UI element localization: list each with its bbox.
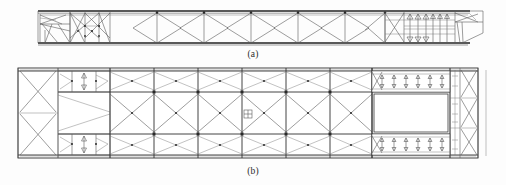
caption-panel-a: (a) (0, 49, 506, 59)
hatch-bottom-stiffener-strip (372, 134, 450, 155)
technical-drawing-svg: .ln { stroke:#5a5a5a; stroke-width:0.6; … (0, 0, 506, 185)
caption-panel-b: (b) (0, 166, 506, 176)
centre-node-marker (244, 110, 252, 118)
panel-b-hatch-opening (372, 68, 450, 158)
hatch-top-stiffener-strip (372, 71, 450, 92)
panel-b-plan (18, 68, 486, 158)
figure-page: .ln { stroke:#5a5a5a; stroke-width:0.6; … (0, 0, 506, 185)
